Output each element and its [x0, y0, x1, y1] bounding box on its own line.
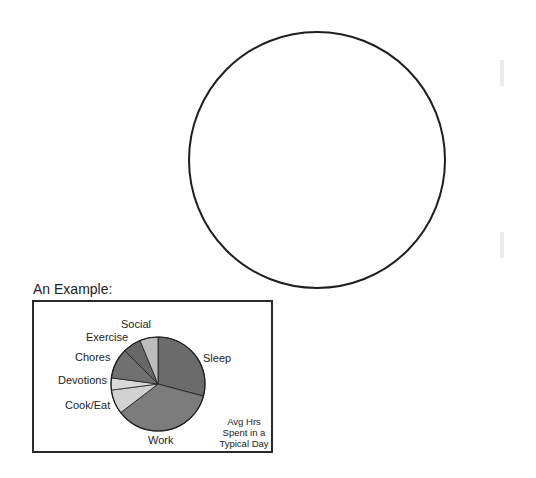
- label-cook-eat: Cook/Eat: [65, 399, 110, 411]
- note-line: Typical Day: [218, 438, 270, 449]
- example-note: Avg Hrs Spent in a Typical Day: [218, 416, 270, 449]
- label-social: Social: [121, 318, 151, 330]
- note-line: Spent in a: [218, 427, 270, 438]
- label-sleep: Sleep: [203, 352, 231, 364]
- label-work: Work: [148, 434, 173, 446]
- label-exercise: Exercise: [86, 331, 128, 343]
- label-chores: Chores: [75, 351, 110, 363]
- label-devotions: Devotions: [58, 374, 107, 386]
- note-line: Avg Hrs: [218, 416, 270, 427]
